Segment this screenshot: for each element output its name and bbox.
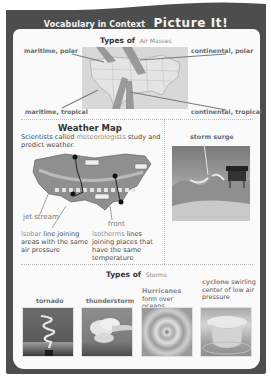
- thunderstorm-cloud-icon: [82, 308, 133, 357]
- tornado-icon: [23, 308, 74, 357]
- title-prefix: Types of: [106, 270, 141, 279]
- title-term: Storms: [146, 271, 167, 278]
- cyclone-icon: [201, 308, 252, 357]
- thunderstorm-image: [81, 307, 133, 357]
- label-tornado: tornado: [36, 297, 64, 304]
- cyclone-image: [200, 307, 252, 357]
- section-divider-2: [21, 264, 253, 265]
- label-thunderstorm: thunderstorm: [86, 297, 134, 304]
- tornado-image: [22, 307, 74, 357]
- cyclone-description: cyclone swirling center of low air press…: [202, 279, 258, 302]
- hurricane-image: [141, 307, 193, 357]
- storms-title: Types of Storms: [106, 270, 167, 279]
